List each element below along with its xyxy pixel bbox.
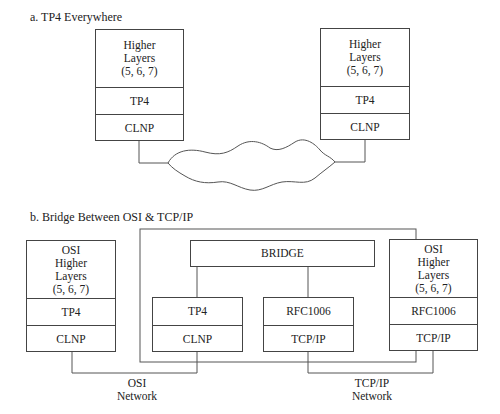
tcpip-host-stack: OSI Higher Layers (5, 6, 7) RFC1006 TCP/… [389, 239, 478, 351]
tp4-cell: TP4 [96, 87, 183, 114]
rfc1006-cell: RFC1006 [390, 297, 477, 324]
clnp-cell: CLNP [153, 325, 242, 352]
bridge-label: BRIDGE [191, 241, 374, 266]
tp4-cell: TP4 [153, 298, 242, 325]
osi-higher-layers-cell: OSI Higher Layers (5, 6, 7) [390, 240, 477, 297]
right-host-link [335, 139, 365, 162]
rfc1006-cell: RFC1006 [264, 298, 353, 325]
clnp-cell: CLNP [27, 325, 115, 352]
higher-layers-cell: Higher Layers (5, 6, 7) [321, 29, 409, 86]
left-host-link [139, 140, 168, 163]
osi-network-label: OSI Network [102, 377, 172, 403]
bridge-box: BRIDGE [190, 240, 375, 267]
higher-layers-cell: Higher Layers (5, 6, 7) [96, 30, 183, 87]
osi-host-stack: OSI Higher Layers (5, 6, 7) TP4 CLNP [26, 240, 116, 352]
network-cloud-icon [168, 140, 335, 190]
part-a-title: a. TP4 Everywhere [30, 10, 122, 25]
part-b-title: b. Bridge Between OSI & TCP/IP [30, 210, 193, 225]
osi-higher-layers-cell: OSI Higher Layers (5, 6, 7) [27, 241, 115, 298]
bridge-tcp-side: RFC1006 TCP/IP [263, 297, 354, 352]
tcpip-network-label: TCP/IP Network [337, 377, 407, 403]
clnp-cell: CLNP [96, 114, 183, 141]
left-host-stack-a: Higher Layers (5, 6, 7) TP4 CLNP [95, 29, 184, 141]
bridge-osi-side: TP4 CLNP [152, 297, 243, 352]
clnp-cell: CLNP [321, 113, 409, 140]
tcpip-cell: TCP/IP [264, 325, 353, 352]
right-host-stack-a: Higher Layers (5, 6, 7) TP4 CLNP [320, 28, 410, 140]
tp4-cell: TP4 [27, 298, 115, 325]
tcpip-cell: TCP/IP [390, 324, 477, 351]
tp4-cell: TP4 [321, 86, 409, 113]
